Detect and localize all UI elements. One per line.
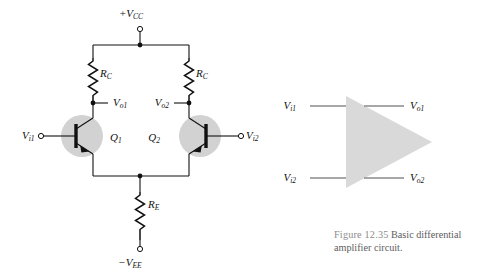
vo1-label: Vo1 [113,96,127,110]
q2-label: Q2 [148,131,160,145]
vo2-label: Vo2 [155,96,169,110]
figure-number: Figure 12.35 [334,229,388,240]
figure-caption: Figure 12.35 Basic differential amplifie… [334,228,486,254]
figure-container: +VCC RC RC Vo1 Vo2 Vi1 Vi2 Q1 [0,0,490,273]
resistor-rc-right-zigzag [185,58,194,103]
vcc-label: +VCC [119,7,144,21]
resistor-rc-left-label: RC [99,67,113,81]
resistor-rc-right-label: RC [195,67,209,81]
block-input-1-label: Vi1 [283,99,296,113]
vcc-junction-dot [138,43,143,48]
vi2-terminal-circle [238,133,243,138]
block-output-1-label: Vo1 [410,99,424,113]
block-input-2-label: Vi2 [283,171,296,185]
resistor-re-zigzag [136,192,145,240]
vee-label: −VEE [118,256,142,270]
resistor-re-label: RE [147,198,160,212]
block-symbol-group: Vi1 Vi2 Vo1 Vo2 [283,96,432,188]
vee-terminal-circle [137,246,142,251]
vi1-terminal-circle [38,133,43,138]
vcc-terminal-circle [137,26,142,31]
vi2-label: Vi2 [246,129,259,143]
block-output-2-label: Vo2 [410,171,424,185]
discrete-circuit-group: +VCC RC RC Vo1 Vo2 Vi1 Vi2 Q1 [22,7,259,270]
resistor-rc-left-zigzag [89,58,98,103]
q1-label: Q1 [110,131,122,145]
vi1-label: Vi1 [22,129,35,143]
